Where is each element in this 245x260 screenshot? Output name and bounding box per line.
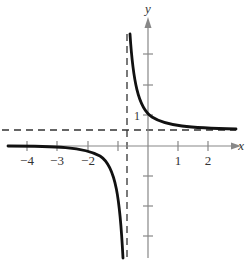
x-tick-label: −4 (20, 153, 34, 168)
x-tick-label: 1 (175, 153, 182, 168)
x-axis-label: x (237, 138, 244, 153)
x-tick-label: −2 (81, 153, 95, 168)
y-tick-label: 1 (134, 109, 140, 123)
x-tick-label: 2 (205, 153, 212, 168)
y-axis-arrow-icon (145, 17, 152, 28)
y-axis-label: y (143, 1, 151, 16)
x-tick-label: −3 (50, 153, 64, 168)
graph-plot: −4 −3 −2 1 2 1 y x (0, 0, 245, 260)
